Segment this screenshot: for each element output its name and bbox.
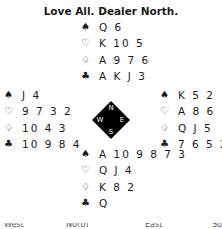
west-spades: ♠ J 4 bbox=[4, 87, 81, 103]
south-clubs: ♣ Q bbox=[81, 195, 187, 211]
club-icon: ♣ bbox=[81, 195, 99, 211]
bidding-col-east: East bbox=[145, 223, 162, 229]
bidding-col-west: West bbox=[4, 223, 24, 229]
heart-icon: ♡ bbox=[81, 162, 99, 178]
south-hearts: ♡ Q J 4 bbox=[81, 162, 187, 178]
east-spades: ♠ K 5 2 bbox=[160, 87, 222, 103]
cards: A K J 3 bbox=[99, 68, 147, 84]
cards: Q J 4 bbox=[99, 162, 134, 178]
cards: Q J 5 bbox=[178, 120, 213, 136]
east-diamonds: ♢ Q J 5 bbox=[160, 120, 222, 136]
cards: A 9 7 6 bbox=[99, 52, 150, 68]
spade-icon: ♠ bbox=[4, 87, 22, 103]
spade-icon: ♠ bbox=[160, 87, 178, 103]
spade-icon: ♠ bbox=[81, 19, 99, 35]
compass-diamond: N S W E bbox=[92, 101, 130, 139]
club-icon: ♣ bbox=[81, 68, 99, 84]
west-hearts: ♡ 9 7 3 2 bbox=[4, 103, 81, 119]
south-hand: ♠ A 10 9 8 7 3 ♡ Q J 4 ♢ K 8 2 ♣ Q bbox=[81, 146, 187, 211]
spade-icon: ♠ bbox=[81, 146, 99, 162]
west-hand: ♠ J 4 ♡ 9 7 3 2 ♢ 10 4 3 ♣ 10 9 8 4 bbox=[4, 87, 81, 152]
diamond-icon: ♢ bbox=[81, 179, 99, 195]
cards: Q bbox=[99, 195, 109, 211]
north-hearts: ♡ K 10 5 bbox=[81, 35, 150, 51]
club-icon: ♣ bbox=[4, 136, 22, 152]
cards: J 4 bbox=[22, 87, 41, 103]
north-spades: ♠ Q 6 bbox=[81, 19, 150, 35]
west-clubs: ♣ 10 9 8 4 bbox=[4, 136, 81, 152]
bidding-col-north: North bbox=[66, 223, 88, 229]
heart-icon: ♡ bbox=[81, 35, 99, 51]
deal-title: Love All. Dealer North. bbox=[0, 5, 222, 17]
cards: A 8 6 bbox=[178, 103, 215, 119]
compass-west-label: W bbox=[96, 116, 104, 124]
south-diamonds: ♢ K 8 2 bbox=[81, 179, 187, 195]
cards: A 10 9 8 7 3 bbox=[99, 146, 187, 162]
bidding-col-south: South bbox=[212, 223, 222, 229]
diamond-icon: ♢ bbox=[160, 120, 178, 136]
bidding-header-partial: West North East South bbox=[0, 223, 222, 229]
diamond-icon: ♢ bbox=[81, 52, 99, 68]
cards: K 8 2 bbox=[99, 179, 136, 195]
south-spades: ♠ A 10 9 8 7 3 bbox=[81, 146, 187, 162]
diamond-icon: ♢ bbox=[4, 120, 22, 136]
east-hearts: ♡ A 8 6 bbox=[160, 103, 222, 119]
east-hand: ♠ K 5 2 ♡ A 8 6 ♢ Q J 5 ♣ 7 6 5 2 bbox=[160, 87, 222, 152]
compass-east-label: E bbox=[118, 116, 126, 124]
cards: K 5 2 bbox=[178, 87, 215, 103]
compass-north-label: N bbox=[107, 104, 115, 112]
cards: 10 4 3 bbox=[22, 120, 67, 136]
cards: 9 7 3 2 bbox=[22, 103, 73, 119]
north-diamonds: ♢ A 9 7 6 bbox=[81, 52, 150, 68]
heart-icon: ♡ bbox=[4, 103, 22, 119]
compass-south-label: S bbox=[107, 128, 115, 136]
west-diamonds: ♢ 10 4 3 bbox=[4, 120, 81, 136]
cards: Q 6 bbox=[99, 19, 123, 35]
north-clubs: ♣ A K J 3 bbox=[81, 68, 150, 84]
north-hand: ♠ Q 6 ♡ K 10 5 ♢ A 9 7 6 ♣ A K J 3 bbox=[81, 19, 150, 84]
cards: K 10 5 bbox=[99, 35, 145, 51]
cards: 10 9 8 4 bbox=[22, 136, 81, 152]
heart-icon: ♡ bbox=[160, 103, 178, 119]
